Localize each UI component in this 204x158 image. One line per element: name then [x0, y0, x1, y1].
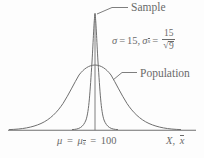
sigma-formula: σ = 15 , σx = 15 √9: [112, 30, 175, 53]
x-axis-variable-label: X, x: [166, 136, 184, 147]
standard-error-fraction: 15 √9: [162, 29, 175, 52]
x-bar-symbol: x: [180, 136, 185, 147]
radicand-value: 9: [168, 41, 174, 52]
distribution-figure: Sample Population σ = 15 , σx = 15 √9 μ …: [0, 0, 204, 158]
equals-sign-2: =: [152, 36, 158, 47]
equals-sign-4: =: [90, 135, 96, 146]
mu-symbol: μ: [57, 135, 62, 146]
mean-axis-label: μ = μx = 100: [57, 136, 117, 147]
fraction-denominator: √9: [162, 40, 175, 52]
fraction-numerator: 15: [163, 29, 175, 39]
mu-xbar-subscript: x: [83, 140, 86, 147]
population-leader-line: [113, 73, 137, 81]
population-annotation-label: Population: [140, 68, 190, 80]
equals-sign-3: =: [67, 135, 73, 146]
square-root-group: √9: [163, 41, 174, 52]
comma-separator: ,: [138, 36, 141, 47]
sample-annotation-label: Sample: [131, 2, 166, 14]
sigma-value: 15: [127, 36, 138, 47]
equals-sign-1: =: [119, 36, 125, 47]
sigma-symbol: σ: [112, 36, 117, 47]
sample-leader-line: [97, 8, 128, 15]
axis-label-comma: ,: [172, 135, 175, 146]
sigma-xbar-subscript: x: [147, 38, 150, 45]
mean-value: 100: [101, 135, 117, 146]
